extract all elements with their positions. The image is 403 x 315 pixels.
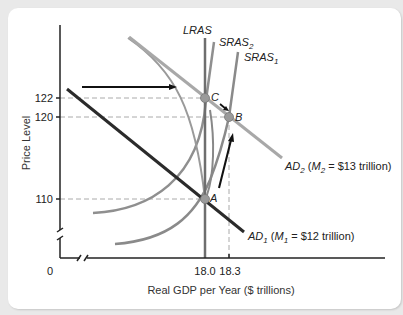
ad-as-diagram: C B A LRAS SRAS2 SRAS1 AD2 (M2 = $13 tri… bbox=[0, 0, 403, 315]
x-tick-18-3: 18.3 bbox=[219, 265, 240, 277]
sras1-label: SRAS1 bbox=[244, 51, 278, 66]
y-tick-120: 120 bbox=[35, 111, 53, 123]
point-a-label: A bbox=[209, 192, 217, 204]
x-tick-18-0: 18.0 bbox=[194, 265, 215, 277]
sras1-curve bbox=[115, 52, 238, 244]
ad2-label: AD2 (M2 = $13 trillion) bbox=[284, 160, 391, 175]
ad1-label: AD1 (M1 = $12 trillion) bbox=[247, 230, 354, 245]
axes bbox=[56, 25, 385, 261]
point-c-label: C bbox=[211, 91, 219, 103]
lras-label: LRAS bbox=[183, 24, 212, 36]
point-b bbox=[225, 113, 234, 122]
sras2-label: SRAS2 bbox=[219, 36, 254, 51]
x-axis-title: Real GDP per Year ($ trillions) bbox=[147, 284, 294, 296]
y-tick-110: 110 bbox=[35, 193, 53, 205]
point-c bbox=[201, 94, 210, 103]
origin-label: 0 bbox=[47, 265, 53, 277]
point-a bbox=[201, 195, 210, 204]
y-tick-122: 122 bbox=[35, 92, 53, 104]
sras2-curve bbox=[93, 42, 214, 213]
y-axis-title: Price Level bbox=[20, 116, 32, 170]
sras2-lower-branch bbox=[128, 38, 205, 199]
point-b-label: B bbox=[235, 111, 242, 123]
